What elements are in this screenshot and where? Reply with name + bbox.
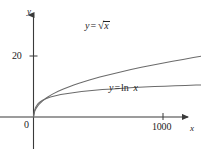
- ln-function-name: ln: [121, 82, 129, 93]
- origin-label: 0: [24, 120, 29, 130]
- x-axis-label: x: [190, 124, 194, 133]
- sqrt-vs-ln-graph-figure: y x 0 20 1000 y=√x y=ln x: [0, 0, 201, 149]
- curve-label-sqrt: y=√x: [85, 20, 109, 31]
- sqrt-label-equals: =: [89, 20, 97, 31]
- vinculum-bar: [103, 21, 110, 22]
- x-tick-label-1000: 1000: [152, 122, 171, 132]
- radical-icon: √x: [97, 20, 109, 31]
- y-tick-label-20: 20: [12, 51, 22, 61]
- y-axis-label: y: [27, 7, 31, 16]
- curve-label-ln: y=ln x: [109, 83, 138, 93]
- ln-label-argument: x: [133, 82, 137, 93]
- ln-label-equals: =: [113, 82, 121, 93]
